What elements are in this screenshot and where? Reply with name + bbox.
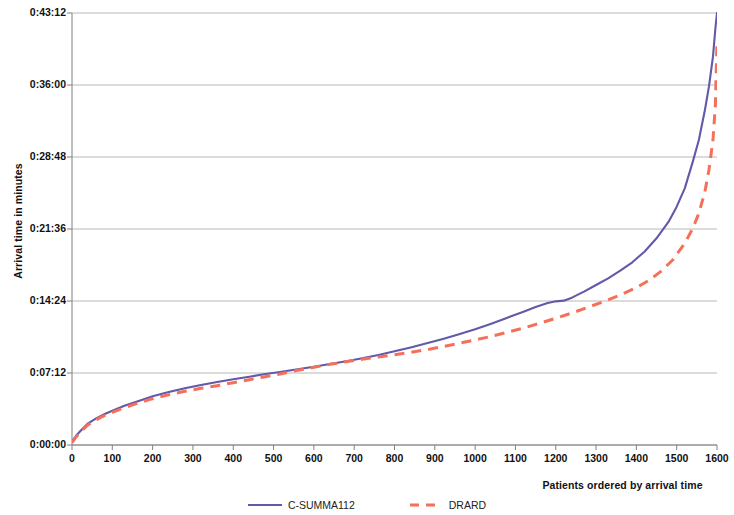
legend-swatch-dashed-line-icon (409, 500, 443, 510)
legend-label-drard: DRARD (449, 499, 486, 511)
x-tick-label: 300 (170, 452, 216, 464)
x-tick-label: 600 (291, 452, 337, 464)
x-tick-label: 1000 (452, 452, 498, 464)
x-tick-label: 900 (412, 452, 458, 464)
x-tick-label: 1600 (694, 452, 734, 464)
x-tick-label: 800 (372, 452, 418, 464)
y-tick-label-text: 0:36:00 (8, 78, 66, 90)
y-tick-label-text: 0:28:48 (8, 150, 66, 162)
x-tick-label: 1500 (654, 452, 700, 464)
x-tick-label: 100 (89, 452, 135, 464)
y-tick-label: 0:21:36 (8, 222, 66, 236)
chart-container: Arrival time in minutes Patients ordered… (0, 0, 734, 515)
x-tick-label: 1200 (533, 452, 579, 464)
x-tick-label: 700 (331, 452, 377, 464)
y-tick-label-text: 0:07:12 (8, 366, 66, 378)
x-tick-label: 0 (49, 452, 95, 464)
legend-item-c-summa112[interactable]: C-SUMMA112 (248, 499, 355, 511)
series-line-c-summa112 (72, 13, 717, 442)
y-tick-label-text: 0:21:36 (8, 222, 66, 234)
legend-item-drard[interactable]: DRARD (409, 499, 486, 511)
x-axis-title: Patients ordered by arrival time (520, 479, 725, 491)
legend-label-c-summa112: C-SUMMA112 (288, 499, 355, 511)
x-tick-label: 200 (130, 452, 176, 464)
x-tick-label: 400 (210, 452, 256, 464)
y-tick-label: 0:28:48 (8, 150, 66, 164)
y-tick-label: 0:00:00 (8, 438, 66, 452)
y-tick-label-text: 0:00:00 (8, 438, 66, 450)
x-tick-label: 1400 (613, 452, 659, 464)
y-tick-label-text: 0:14:24 (8, 294, 66, 306)
x-tick-label: 500 (251, 452, 297, 464)
series-line-drard (72, 42, 717, 443)
y-tick-label: 0:43:12 (8, 6, 66, 20)
x-tick-label: 1100 (492, 452, 538, 464)
x-tick-label: 1300 (573, 452, 619, 464)
y-tick-label-text: 0:43:12 (8, 6, 66, 18)
y-tick-label: 0:07:12 (8, 366, 66, 380)
y-tick-label: 0:36:00 (8, 78, 66, 92)
chart-legend: C-SUMMA112 DRARD (0, 496, 734, 514)
y-tick-label: 0:14:24 (8, 294, 66, 308)
legend-swatch-solid-line-icon (248, 500, 282, 510)
line-chart-plot (0, 0, 734, 515)
